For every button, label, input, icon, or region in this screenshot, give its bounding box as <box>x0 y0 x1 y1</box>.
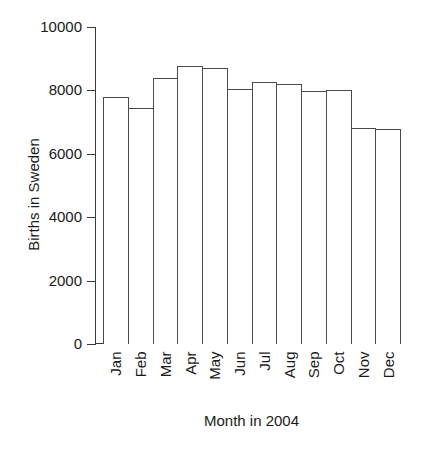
bar <box>252 82 278 344</box>
y-axis-tick-label: 0 <box>20 336 82 351</box>
bar <box>351 128 377 344</box>
x-axis-tick-cell: Sep <box>301 348 326 404</box>
y-axis-tick-labels: 1000080006000400020000 <box>20 0 82 452</box>
x-axis-tick-cell: Apr <box>177 348 202 404</box>
plot-area <box>103 27 400 344</box>
y-axis-tick-label: 2000 <box>20 273 82 288</box>
x-axis-tick-cell: Dec <box>375 348 400 404</box>
x-axis-tick-label: Dec <box>380 352 395 408</box>
bar-chart-figure: Births in Sweden 1000080006000400020000 … <box>0 0 427 452</box>
x-axis-tick-label: Jun <box>232 352 247 408</box>
x-axis-tick-cell: Nov <box>351 348 376 404</box>
bar <box>177 66 203 344</box>
x-axis-tick-label: Aug <box>281 352 296 408</box>
bar <box>128 108 154 344</box>
y-axis-tick-label: 6000 <box>20 146 82 161</box>
x-axis-tick-cell: Aug <box>276 348 301 404</box>
x-axis-tick-label: Nov <box>355 352 370 408</box>
x-axis-tick-label: Jul <box>256 352 271 408</box>
x-axis-tick-cell: Mar <box>153 348 178 404</box>
x-axis-tick-label: May <box>207 352 222 408</box>
x-axis-tick-label: Mar <box>157 352 172 408</box>
bar <box>227 89 253 344</box>
x-axis-tick-label: Jan <box>108 352 123 408</box>
x-axis-tick-cell: Jan <box>103 348 128 404</box>
bar <box>375 129 401 344</box>
bar <box>301 91 327 344</box>
x-axis-title: Month in 2004 <box>103 412 400 429</box>
x-axis-tick-label: Feb <box>133 352 148 408</box>
x-axis-tick-cell: Jul <box>252 348 277 404</box>
x-axis-tick-cell: May <box>202 348 227 404</box>
bar <box>202 68 228 344</box>
x-axis-tick-label: Apr <box>182 352 197 408</box>
y-axis-line <box>95 27 96 344</box>
x-axis-tick-cell: Feb <box>128 348 153 404</box>
bar <box>276 84 302 344</box>
y-axis-tick-label: 8000 <box>20 82 82 97</box>
y-axis-tick-label: 10000 <box>20 19 82 34</box>
bars-container <box>103 27 400 344</box>
x-axis-tick-labels: JanFebMarAprMayJunJulAugSepOctNovDec <box>103 348 400 404</box>
x-axis-tick-cell: Oct <box>326 348 351 404</box>
bar <box>153 78 179 344</box>
bar <box>326 90 352 344</box>
bar <box>103 97 129 344</box>
y-axis-tick-label: 4000 <box>20 209 82 224</box>
y-axis-tick-mark <box>87 344 96 345</box>
x-axis-tick-cell: Jun <box>227 348 252 404</box>
x-axis-tick-label: Sep <box>306 352 321 408</box>
x-axis-tick-label: Oct <box>331 352 346 408</box>
